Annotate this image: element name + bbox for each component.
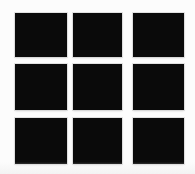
- cell-r3c2[interactable]: [73, 118, 122, 164]
- grid-canvas: [0, 0, 195, 174]
- cell-r2c3[interactable]: [133, 64, 184, 110]
- cell-r3c1[interactable]: [15, 118, 67, 164]
- cell-r3c3[interactable]: [133, 118, 184, 164]
- cell-r1c3[interactable]: [133, 13, 184, 57]
- cell-r1c2[interactable]: [73, 13, 122, 57]
- cell-r1c1[interactable]: [15, 13, 67, 57]
- cell-r2c1[interactable]: [15, 64, 67, 110]
- cell-r2c2[interactable]: [73, 64, 122, 110]
